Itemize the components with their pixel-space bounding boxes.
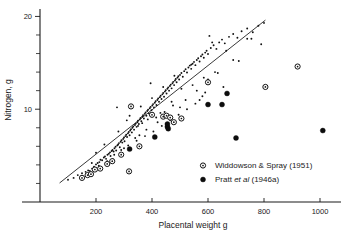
- data-point-small: [91, 162, 93, 164]
- data-point-small: [120, 149, 122, 151]
- data-point-small: [221, 39, 223, 41]
- data-point-small: [123, 147, 125, 149]
- regression-line-group: [60, 20, 266, 183]
- data-point-small: [208, 35, 210, 37]
- x-tick-label: 200: [90, 207, 103, 216]
- data-point-small: [185, 99, 187, 101]
- data-point-small: [100, 159, 102, 161]
- data-point-widdowson-core: [297, 66, 299, 68]
- data-point-small: [252, 31, 254, 33]
- data-point-small: [143, 118, 145, 120]
- legend-marker-open-core: [202, 165, 204, 167]
- data-point-small: [176, 81, 178, 83]
- y-tick-label: 10: [24, 105, 32, 114]
- data-point-small: [128, 131, 130, 133]
- data-point-widdowson-core: [130, 106, 132, 108]
- data-point-small: [173, 84, 175, 86]
- data-point-small: [213, 44, 215, 46]
- data-point-small: [77, 174, 79, 176]
- data-point-small: [192, 84, 194, 86]
- data-point-small: [81, 172, 83, 174]
- data-point-small: [125, 134, 127, 136]
- data-point-small: [140, 105, 142, 107]
- data-point-small: [118, 142, 120, 144]
- legend: Widdowson & Spray (1951)Pratt et al (194…: [200, 161, 312, 184]
- data-point-small: [98, 161, 100, 163]
- data-point-small: [186, 108, 188, 110]
- data-point-widdowson-core: [207, 81, 209, 83]
- data-point-small: [103, 144, 105, 146]
- data-point-small: [147, 118, 149, 120]
- data-point-widdowson-core: [139, 145, 141, 147]
- data-point-small: [110, 155, 112, 157]
- data-point-small: [236, 37, 238, 39]
- data-point-small: [155, 117, 157, 119]
- data-point-small: [179, 106, 181, 108]
- data-point-small: [131, 131, 133, 133]
- data-point-small: [179, 74, 181, 76]
- data-point-small: [166, 92, 168, 94]
- legend-marker-filled: [201, 177, 206, 182]
- data-point-small: [206, 50, 208, 52]
- data-point-small: [152, 131, 154, 133]
- data-point-widdowson-core: [94, 169, 96, 171]
- data-point-small: [147, 109, 149, 111]
- data-point-small: [145, 129, 147, 131]
- data-point-widdowson-core: [111, 160, 113, 162]
- x-tick-label: 800: [258, 207, 271, 216]
- axis-titles-group: Placental weight g Nitrogen, g: [3, 79, 228, 230]
- data-point-widdowson-core: [90, 173, 92, 175]
- data-point-small: [168, 90, 170, 92]
- data-point-small: [163, 96, 165, 98]
- data-point-small: [210, 47, 212, 49]
- data-point-small: [130, 128, 132, 130]
- data-point-widdowson-core: [169, 117, 171, 119]
- data-point-small: [177, 75, 179, 77]
- data-point-small: [121, 142, 123, 144]
- data-point-pratt: [152, 135, 157, 140]
- data-point-small: [263, 22, 265, 24]
- data-point-small: [170, 84, 172, 86]
- data-point-small: [137, 125, 139, 127]
- data-point-widdowson-core: [181, 118, 183, 120]
- data-point-small: [136, 140, 138, 142]
- data-point-small: [162, 92, 164, 94]
- data-point-small: [250, 38, 252, 40]
- data-point-small: [173, 75, 175, 77]
- data-point-pratt: [234, 135, 239, 140]
- data-point-widdowson-core: [128, 171, 130, 173]
- data-point-small: [115, 150, 117, 152]
- data-point-small: [185, 68, 187, 70]
- data-point-small: [129, 134, 131, 136]
- x-tick-label: 1000: [312, 207, 329, 216]
- data-point-small: [194, 103, 196, 105]
- data-point-small: [150, 82, 152, 84]
- y-axis-title: Nitrogen, g: [3, 79, 13, 121]
- data-point-small: [201, 95, 203, 97]
- data-point-small: [186, 72, 188, 74]
- data-point-small: [241, 30, 243, 32]
- data-point-small: [145, 112, 147, 114]
- data-point-small: [217, 72, 219, 74]
- data-point-pratt: [206, 102, 211, 107]
- data-point-small: [211, 41, 213, 43]
- data-point-small: [238, 60, 240, 62]
- data-point-small: [161, 98, 163, 100]
- data-point-small: [178, 79, 180, 81]
- data-point-widdowson-core: [120, 154, 122, 156]
- data-point-small: [160, 95, 162, 97]
- data-point-small: [144, 135, 146, 137]
- data-point-small: [119, 146, 121, 148]
- data-point-small: [156, 104, 158, 106]
- data-point-small: [171, 101, 173, 103]
- data-point-small: [152, 103, 154, 105]
- data-point-pratt: [166, 126, 171, 131]
- data-point-widdowson-core: [81, 177, 83, 179]
- data-point-small: [182, 76, 184, 78]
- data-point-small: [124, 140, 126, 142]
- x-axis-title: Placental weight g: [159, 220, 228, 230]
- data-point-small: [180, 72, 182, 74]
- data-point-small: [246, 38, 248, 40]
- data-point-small: [190, 68, 192, 70]
- data-point-small: [172, 81, 174, 83]
